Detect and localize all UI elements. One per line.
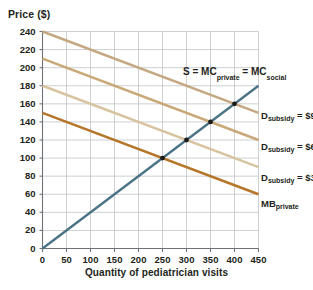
y-tick-label: 80 [10, 171, 36, 181]
x-tick-label: 200 [126, 255, 152, 265]
x-tick-label: 300 [174, 255, 200, 265]
y-tick-label: 140 [10, 117, 36, 127]
y-tick-label: 240 [10, 27, 36, 37]
x-tick-label: 0 [30, 255, 56, 265]
tick-marks [40, 32, 259, 253]
x-tick-label: 100 [78, 255, 104, 265]
x-tick-label: 150 [102, 255, 128, 265]
demand-subsidy-60-label: Dsubsidy = $60 [261, 142, 313, 153]
y-tick-label: 20 [10, 225, 36, 235]
y-tick-label: 40 [10, 207, 36, 217]
x-tick-label: 450 [246, 255, 272, 265]
y-tick-label: 100 [10, 153, 36, 163]
y-tick-label: 0 [10, 244, 36, 254]
x-tick-label: 250 [150, 255, 176, 265]
x-tick-label: 400 [222, 255, 248, 265]
y-tick-label: 200 [10, 63, 36, 73]
demand-subsidy-30-label: Dsubsidy = $30 [261, 173, 313, 184]
y-tick-label: 60 [10, 189, 36, 199]
x-axis-title: Quantity of pediatrician visits [0, 267, 313, 278]
x-tick-label: 350 [198, 255, 224, 265]
mb-private-label: MBprivate [261, 199, 299, 210]
demand-subsidy-90-label: Dsubsidy = $90 [261, 111, 313, 122]
gridlines [43, 32, 259, 249]
x-tick-label: 50 [54, 255, 80, 265]
y-tick-label: 220 [10, 45, 36, 55]
y-tick-label: 120 [10, 135, 36, 145]
y-tick-label: 180 [10, 81, 36, 91]
supply-curve-label: S = MCprivate = MCsocial [183, 66, 286, 79]
y-tick-label: 160 [10, 99, 36, 109]
